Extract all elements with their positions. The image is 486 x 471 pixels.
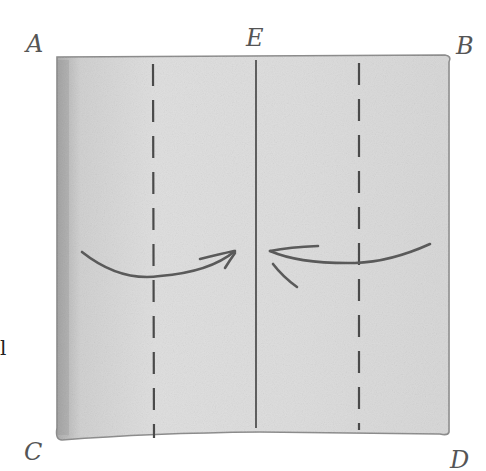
corner-label-c: C: [24, 440, 42, 464]
corner-label-a: A: [26, 32, 43, 56]
corner-label-d: D: [450, 448, 469, 471]
center-label-e: E: [246, 26, 264, 50]
edge-text-fragment: l: [0, 338, 6, 358]
paper-diagram: [0, 0, 486, 471]
corner-label-b: B: [456, 34, 474, 58]
